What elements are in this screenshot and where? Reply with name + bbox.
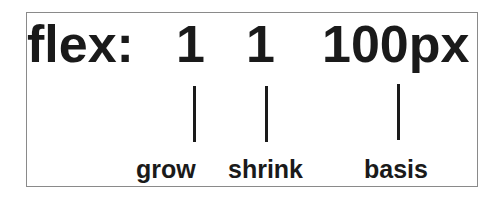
property-name: flex: xyxy=(27,14,134,74)
flex-basis-value: 100px xyxy=(322,14,469,74)
shrink-label: shrink xyxy=(228,154,303,184)
basis-connector-line xyxy=(397,84,400,140)
grow-connector-line xyxy=(193,86,196,142)
flex-shrink-value: 1 xyxy=(246,14,275,74)
shrink-connector-line xyxy=(265,86,268,142)
grow-label: grow xyxy=(136,154,196,184)
basis-label: basis xyxy=(364,154,428,184)
flex-grow-value: 1 xyxy=(176,14,205,74)
